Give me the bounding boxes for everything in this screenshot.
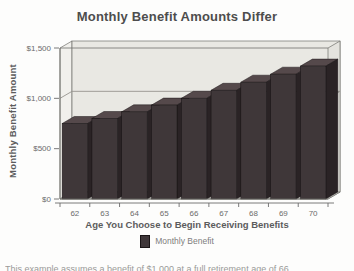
bar-age-65 (151, 105, 176, 199)
bar-age-63 (92, 118, 117, 199)
x-tick-label: 69 (279, 209, 288, 218)
bar-age-69 (271, 74, 296, 199)
x-axis-title: Age You Choose to Begin Receiving Benefi… (30, 219, 344, 230)
bar-age-68 (241, 82, 266, 199)
legend-label: Monthly Benefit (155, 236, 214, 246)
bar-age-64 (122, 112, 147, 199)
legend-swatch-icon (140, 235, 150, 248)
bar-age-62 (62, 124, 87, 200)
bar-side-age-70 (326, 59, 338, 199)
bar-age-66 (181, 98, 206, 199)
scanned-chart-page: Monthly Benefit Amounts Differ Monthly B… (0, 0, 354, 271)
x-tick-label: 62 (70, 209, 79, 218)
caption-cropped: This example assumes a benefit of $1,000… (5, 264, 350, 271)
y-tick-label: $1,000 (27, 94, 52, 103)
y-tick-label: $500 (33, 144, 51, 153)
y-tick-label: $1,500 (27, 44, 52, 53)
x-tick-label: 70 (309, 209, 318, 218)
bar-age-67 (211, 90, 236, 199)
x-tick-label: 64 (130, 209, 139, 218)
chart-title: Monthly Benefit Amounts Differ (0, 9, 354, 24)
x-tick-label: 66 (190, 209, 199, 218)
x-tick-label: 67 (219, 209, 228, 218)
bar-age-70 (300, 66, 325, 199)
bar-chart-plot: $0$500$1,000$1,500626364656667686970 (0, 35, 354, 230)
x-tick-label: 65 (160, 209, 169, 218)
x-tick-label: 68 (249, 209, 258, 218)
y-tick-label: $0 (42, 195, 51, 204)
legend: Monthly Benefit (0, 234, 354, 248)
x-tick-label: 63 (100, 209, 109, 218)
